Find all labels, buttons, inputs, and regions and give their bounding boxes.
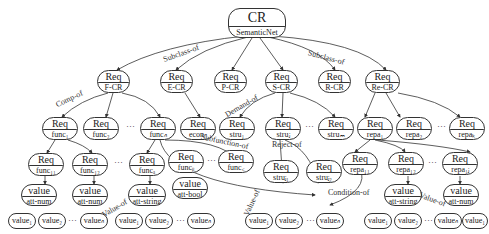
node-f-cr: ReqF-CR — [97, 70, 130, 93]
ellipsis: ··· — [126, 121, 135, 131]
node-name-label: funcₐ — [130, 166, 164, 176]
node-type-label: value — [173, 178, 207, 190]
ellipsis: ··· — [306, 215, 315, 225]
node-name-label: func꜀ — [219, 163, 253, 173]
ellipsis: ··· — [437, 121, 446, 131]
node-funcb: Reqfuncᵦ — [168, 150, 204, 173]
node-type-label: Req — [343, 153, 377, 165]
node-type-label: Req — [266, 71, 297, 83]
root-node: CR SemanticNet — [228, 8, 286, 38]
node-name-label: struⱼ — [266, 130, 300, 140]
node-name-label: att-bool — [173, 190, 207, 199]
semantic-net-diagram: CR SemanticNet ReqF-CR ReqE-CR ReqP-CR R… — [0, 0, 489, 234]
value-leaf: valueₙ — [316, 213, 344, 229]
ellipsis: ··· — [68, 215, 77, 225]
attr-att-num-1: valueatt-num — [21, 184, 57, 206]
node-type-label: Req — [450, 118, 484, 130]
node-type-label: Req — [29, 154, 63, 166]
node-type-label: value — [444, 185, 478, 197]
value-leaf: value₁ — [8, 213, 36, 229]
attr-att-num-2: valueatt-num — [72, 184, 108, 206]
edge-label-reject-of: Reject-of — [272, 140, 302, 149]
value-leaf: value₂ — [275, 213, 303, 229]
node-repak: Reqrepaₖ — [449, 117, 485, 140]
node-struj2: Reqstruⱼ₂ — [306, 160, 342, 183]
node-type-label: Req — [43, 118, 77, 130]
ellipsis: ··· — [114, 157, 123, 167]
node-type-label: Req — [319, 71, 350, 83]
attr-att-string-1: valueatt-string — [128, 184, 166, 206]
attr-att-num-3: valueatt-num — [443, 184, 479, 206]
node-name-label: repa₁ⱼ — [443, 165, 477, 175]
node-type-label: Req — [215, 71, 246, 83]
ellipsis: ··· — [305, 121, 314, 131]
node-type-label: value — [22, 185, 56, 197]
node-type-label: Req — [220, 118, 254, 130]
value-leaf: valueₙ — [187, 213, 215, 229]
edge-label-condition-of: Condition-of — [328, 188, 369, 197]
node-struj1: Reqstruⱼ₁ — [263, 160, 299, 183]
ellipsis: ··· — [428, 157, 437, 167]
node-type-label: Req — [264, 161, 298, 173]
node-type-label: Req — [366, 71, 399, 83]
node-name-label: func₁₂ — [73, 166, 107, 176]
node-name-label: att-string — [385, 197, 421, 206]
node-type-label: Req — [319, 118, 353, 130]
node-type-label: Req — [443, 153, 477, 165]
value-leaf: value₂ — [145, 213, 173, 229]
node-name-label: func₂ — [84, 130, 118, 140]
node-func11: Reqfunc₁₁ — [28, 153, 64, 176]
node-strum: Reqstruₘ — [318, 117, 354, 140]
node-e-cr: ReqE-CR — [160, 70, 193, 93]
node-name-label: Re-CR — [366, 83, 399, 93]
node-type-label: value — [129, 185, 165, 197]
node-name-label: struⱼ₂ — [307, 173, 341, 183]
node-func12: Reqfunc₁₂ — [72, 153, 108, 176]
node-name-label: funcₙ — [141, 130, 175, 140]
node-s-cr: ReqS-CR — [265, 70, 298, 93]
node-repa2: Reqrepa₂ — [396, 117, 432, 140]
node-func2: Reqfunc₂ — [83, 117, 119, 140]
node-type-label: Req — [161, 71, 192, 83]
node-name-label: struⱼ₁ — [264, 173, 298, 183]
node-func1: Reqfunc₁ — [42, 117, 78, 140]
node-type-label: Req — [169, 151, 203, 163]
value-leaf: value₁ — [364, 213, 392, 229]
node-type-label: Req — [358, 118, 392, 130]
node-type-label: Req — [84, 118, 118, 130]
value-leaf: value₁ — [115, 213, 143, 229]
node-type-label: value — [385, 185, 421, 197]
value-leaf: valueₙ — [434, 213, 462, 229]
node-repa12: Reqrepa₁₂ — [388, 152, 424, 175]
node-r-cr: ReqR-CR — [318, 70, 351, 93]
node-struj: Reqstruⱼ — [265, 117, 301, 140]
attr-att-bool: valueatt-bool — [172, 177, 208, 199]
node-name-label: funcᵦ — [169, 163, 203, 173]
node-name-label: struₘ — [319, 130, 353, 140]
node-name-label: att-string — [129, 197, 165, 206]
node-name-label: repaₖ — [450, 130, 484, 140]
node-type-label: value — [73, 185, 107, 197]
value-leaf: value₂ — [394, 213, 422, 229]
node-repa11: Reqrepa₁₁ — [342, 152, 378, 175]
node-name-label: att-num — [73, 197, 107, 206]
ellipsis: ··· — [207, 155, 216, 165]
attr-att-string-2: valueatt-string — [384, 184, 422, 206]
node-name-label: func₁ — [43, 130, 77, 140]
node-name-label: repa₁ — [358, 130, 392, 140]
node-repa1: Reqrepa₁ — [357, 117, 393, 140]
node-type-label: Req — [73, 154, 107, 166]
node-type-label: Req — [130, 154, 164, 166]
node-funcc: Reqfunc꜀ — [218, 150, 254, 173]
node-re-cr: ReqRe-CR — [365, 70, 400, 93]
node-type-label: CR — [229, 9, 285, 27]
node-type-label: Req — [98, 71, 129, 83]
node-name-label: repa₁₁ — [343, 165, 377, 175]
ellipsis: ··· — [424, 215, 433, 225]
ellipsis: ··· — [176, 215, 185, 225]
node-name-label: att-num — [444, 197, 478, 206]
node-type-label: Req — [181, 118, 215, 130]
node-type-label: Req — [389, 153, 423, 165]
value-leaf: value₁ — [462, 213, 488, 229]
node-name-label: att-num — [22, 197, 56, 206]
